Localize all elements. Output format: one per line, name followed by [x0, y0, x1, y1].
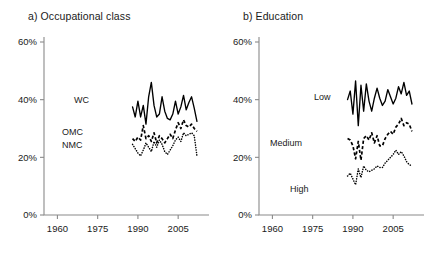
- x-tick-label: 1960: [47, 223, 68, 234]
- panel-occupational-class: a) Occupational class 0%20%40%60%1960197…: [0, 0, 215, 256]
- panel-education: b) Education 0%20%40%60%1960197519902005…: [215, 0, 430, 256]
- series-wc: [133, 82, 197, 124]
- x-tick-label: 2005: [168, 223, 189, 234]
- series-label-medium: Medium: [270, 138, 302, 148]
- x-tick-label: 1975: [302, 223, 323, 234]
- series-label-low: Low: [314, 92, 331, 102]
- series-label-wc: WC: [74, 95, 89, 105]
- x-tick-label: 1990: [127, 223, 148, 234]
- x-tick-label: 1990: [342, 223, 363, 234]
- x-tick-label: 1960: [262, 223, 283, 234]
- series-nmc: [133, 133, 197, 156]
- y-tick-label: 0%: [238, 209, 252, 220]
- y-tick-label: 0%: [23, 209, 37, 220]
- y-tick-label: 40%: [233, 94, 253, 105]
- panel-b-svg: 0%20%40%60%1960197519902005LowMediumHigh: [215, 0, 430, 256]
- series-medium: [348, 118, 412, 160]
- series-label-omc: OMC: [62, 127, 83, 137]
- y-tick-label: 20%: [233, 152, 253, 163]
- axis-lines: [259, 37, 424, 215]
- panel-a-plot: 0%20%40%60%1960197519902005WCOMCNMC: [0, 0, 215, 256]
- figure-root: a) Occupational class 0%20%40%60%1960197…: [0, 0, 430, 256]
- series-omc: [133, 120, 197, 143]
- x-tick-label: 2005: [383, 223, 404, 234]
- y-tick-label: 60%: [18, 36, 38, 47]
- y-tick-label: 60%: [233, 36, 253, 47]
- y-tick-label: 20%: [18, 152, 38, 163]
- x-tick-label: 1975: [87, 223, 108, 234]
- series-label-nmc: NMC: [62, 140, 83, 150]
- y-tick-label: 40%: [18, 94, 38, 105]
- series-label-high: High: [290, 184, 309, 194]
- panel-b-plot: 0%20%40%60%1960197519902005LowMediumHigh: [215, 0, 430, 256]
- series-high: [348, 150, 412, 185]
- panel-a-svg: 0%20%40%60%1960197519902005WCOMCNMC: [0, 0, 215, 256]
- axis-lines: [44, 37, 209, 215]
